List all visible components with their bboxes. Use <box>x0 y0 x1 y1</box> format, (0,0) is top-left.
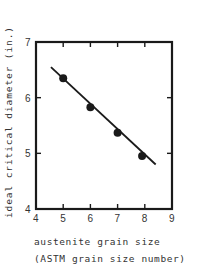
x-tick-label: 9 <box>169 213 175 224</box>
y-axis-label: ideal critical diameter (in.) <box>3 38 14 218</box>
data-point <box>138 152 146 160</box>
x-tick-label: 5 <box>60 213 66 224</box>
data-point <box>59 74 67 82</box>
x-tick-label: 7 <box>115 213 121 224</box>
chart: 4567894567 austenite grain size (ASTM gr… <box>0 0 208 276</box>
y-tick-label: 6 <box>25 93 31 104</box>
y-tick-label: 4 <box>25 204 31 215</box>
x-tick-label: 8 <box>142 213 148 224</box>
data-point <box>86 103 94 111</box>
x-tick-label: 6 <box>87 213 93 224</box>
y-tick-label: 5 <box>25 148 31 159</box>
plot-frame <box>36 42 172 209</box>
fit-line <box>51 67 156 164</box>
x-axis-label-sub: (ASTM grain size number) <box>34 253 186 264</box>
y-tick-label: 7 <box>25 37 31 48</box>
x-axis-label: austenite grain size (ASTM grain size nu… <box>34 233 208 267</box>
data-point <box>114 129 122 137</box>
x-axis-label-main: austenite grain size <box>34 236 160 247</box>
x-tick-label: 4 <box>33 213 39 224</box>
